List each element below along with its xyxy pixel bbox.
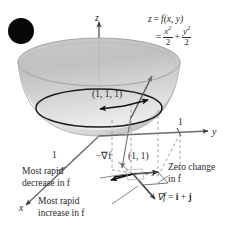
zero-change-line2: in f (168, 175, 215, 185)
gradient-formula-label: ∇f = i + j (157, 193, 192, 203)
x-axis-label: x (19, 203, 23, 214)
equation-lhs: z (148, 15, 152, 25)
most-rapid-increase-line1: Most rapid (38, 197, 84, 207)
dash-to-x (70, 136, 99, 162)
negative-gradient-label: −∇f (96, 152, 112, 162)
negative-gradient-text: −∇f (96, 151, 112, 161)
y-axis-label: y (212, 127, 216, 138)
most-rapid-increase-line2: increase in f (38, 209, 84, 219)
term-x-squared-over-2: x2 2 (163, 27, 172, 47)
most-rapid-decrease-label: Most rapid decrease in f (22, 167, 70, 189)
leader-most-rapid-increase (112, 186, 138, 204)
x-tick-label-1: 1 (52, 151, 57, 161)
equation-equals-2: = (156, 33, 161, 43)
zero-change-line1: Zero change (168, 163, 215, 173)
term2-exponent: 2 (187, 24, 190, 31)
term2-numerator: y2 (182, 27, 191, 36)
plane-point-label: (1, 1) (128, 152, 149, 162)
most-rapid-increase-label: Most rapid increase in f (38, 197, 84, 219)
gradient-formula-i: i (176, 192, 179, 202)
term1-numerator: x2 (163, 27, 172, 36)
surface-equation: z = f(x, y) = x2 2 + y2 2 (148, 15, 191, 48)
y-tick-label-1: 1 (178, 118, 183, 128)
gradient-paraboloid-figure: z y x z = f(x, y) = x2 2 + y2 2 (1, 1, 1… (0, 0, 234, 238)
surface-point-label: (1, 1, 1) (92, 90, 122, 100)
zero-change-label: Zero change in f (168, 163, 215, 185)
gradient-formula-lhs: ∇f (157, 192, 166, 202)
z-axis-label: z (95, 13, 99, 24)
most-rapid-decrease-line1: Most rapid (22, 167, 70, 177)
gradient-formula-equals: = (168, 192, 173, 202)
gradient-formula-j: j (189, 192, 192, 202)
equation-rhs: f(x, y) (161, 15, 183, 25)
most-rapid-decrease-line2: decrease in f (22, 179, 70, 189)
term1-denominator: 2 (163, 38, 172, 47)
term-y-squared-over-2: y2 2 (182, 27, 191, 47)
term1-exponent: 2 (168, 24, 171, 31)
vector-parallelogram (133, 172, 168, 185)
gradient-formula-plus: + (181, 192, 186, 202)
term2-denominator: 2 (182, 38, 191, 47)
equation-equals-1: = (154, 15, 159, 25)
equation-plus: + (175, 33, 180, 43)
figure-graphics (0, 0, 234, 238)
paraboloid-surface (18, 38, 180, 136)
